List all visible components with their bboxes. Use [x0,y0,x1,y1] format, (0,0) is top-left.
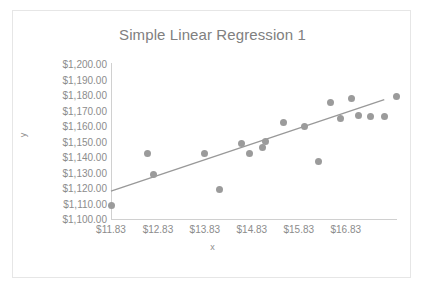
scatter-point [262,138,269,145]
scatter-point [381,113,388,120]
x-axis-tick-label: $16.83 [330,224,361,235]
trendline [111,64,396,219]
scatter-point [108,202,115,209]
x-axis-tick-label: $13.83 [190,224,221,235]
scatter-point [367,113,374,120]
x-axis-tick-label: $12.83 [143,224,174,235]
y-axis-tick-label: $1,120.00 [35,183,107,194]
x-axis-tick-label: $11.83 [96,224,126,235]
screenshot-root: Simple Linear Regression 1 $1,200.00$1,1… [0,0,423,289]
y-axis-tick-label: $1,190.00 [35,74,107,85]
scatter-point [393,93,400,100]
x-axis-tick-label: $15.83 [284,224,315,235]
y-axis-tick-label: $1,140.00 [35,152,107,163]
y-axis-title: y [18,133,28,138]
scatter-point [301,123,308,130]
scatter-point [246,150,253,157]
scatter-point [337,115,344,122]
scatter-point [348,95,355,102]
plot-area[interactable] [111,64,396,219]
scatter-point [355,112,362,119]
scatter-point [259,144,266,151]
y-axis-tick-label: $1,110.00 [35,198,107,209]
y-axis-tick-labels: $1,200.00$1,190.00$1,180.00$1,170.00$1,1… [33,11,107,279]
y-axis-tick-label: $1,180.00 [35,90,107,101]
y-axis-tick-label: $1,170.00 [35,105,107,116]
y-axis-tick-label: $1,150.00 [35,136,107,147]
y-axis-tick-label: $1,200.00 [35,59,107,70]
x-axis-tick-label: $14.83 [237,224,268,235]
scatter-point [327,99,334,106]
y-axis-tick-label: $1,130.00 [35,167,107,178]
y-axis-tick-label: $1,160.00 [35,121,107,132]
scatter-point [238,140,245,147]
x-axis-title: x [13,242,412,252]
y-axis-tick-label: $1,100.00 [35,214,107,225]
chart-container[interactable]: Simple Linear Regression 1 $1,200.00$1,1… [12,10,411,278]
x-axis-line [111,219,397,220]
scatter-point [150,171,157,178]
